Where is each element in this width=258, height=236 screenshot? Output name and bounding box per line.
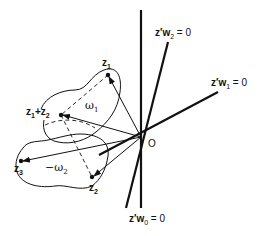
z3-sub: 3 [19,169,23,176]
vector-z2 [94,137,141,176]
w1-suffix: = 0 [230,77,247,88]
label-hyperplane-w0: z′w0 = 0 [129,214,165,224]
vector-z1 [109,77,141,137]
omega1-symbol: ω [85,99,94,112]
omega2-sub: 2 [63,168,67,176]
omega1-sub: 1 [94,106,98,114]
label-hyperplane-w1: z′w1 = 0 [211,78,247,88]
z1-sub: 1 [107,63,111,70]
omega2-symbol: ω [54,161,63,174]
sum-sub1: 1 [31,112,35,119]
label-hyperplane-w2: z′w2 = 0 [155,28,191,38]
point-z3 [19,159,23,163]
w1-sub: 1 [226,83,230,90]
point-z1 [106,73,110,77]
sum-name2: z [41,106,46,117]
point-z1-plus-z2 [59,113,63,117]
point-z2 [90,175,94,179]
label-omega1: ω1 [85,100,98,111]
sum-sub2: 2 [46,112,50,119]
z2-sub: 2 [94,188,98,195]
diagram-canvas [0,0,258,236]
label-z3: z3 [14,164,23,174]
label-z1: z1 [102,58,111,68]
vector-z1-plus-z2 [63,115,141,137]
w2-prefix: z′w [155,27,170,38]
w2-sub: 2 [170,33,174,40]
region-omega1-outline [41,69,120,143]
w1-prefix: z′w [211,77,226,88]
w0-prefix: z′w [129,213,144,224]
label-z1-plus-z2: z1+z2 [26,107,50,117]
omega2-prefix: − [45,161,54,174]
origin-label: O [148,139,156,149]
dashed-arc [45,120,95,128]
w2-suffix: = 0 [174,27,191,38]
label-z2: z2 [89,183,98,193]
label-omega2: −ω2 [45,162,68,173]
w0-suffix: = 0 [148,213,165,224]
hyperplane-w1-line [99,92,218,155]
w0-sub: 0 [144,219,148,226]
hyperplane-w2-line [126,42,168,208]
